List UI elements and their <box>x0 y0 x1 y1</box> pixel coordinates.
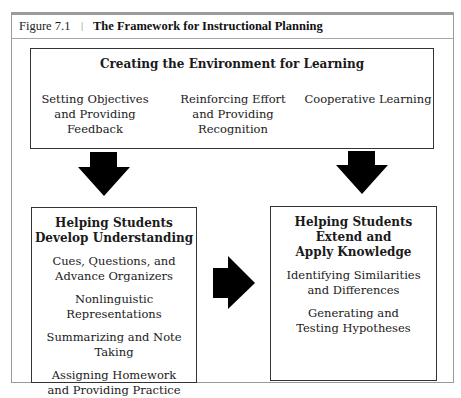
arrow-down-icon <box>78 152 131 197</box>
title-line: Extend and <box>271 230 436 245</box>
environment-item: Cooperative Learning <box>301 92 435 107</box>
title-line: Apply Knowledge <box>271 245 436 260</box>
title-line: Helping Students <box>32 216 196 231</box>
item-line: Testing Hypotheses <box>271 321 436 336</box>
figure-label: Figure 7.1 <box>19 19 70 34</box>
item-line: and Providing <box>159 107 307 122</box>
strategy-item: Generating and Testing Hypotheses <box>271 306 436 336</box>
item-line: Nonlinguistic Representations <box>32 292 196 322</box>
environment-box: Creating the Environment for Learning Se… <box>30 48 434 149</box>
strategy-item: Nonlinguistic Representations <box>32 292 196 322</box>
item-line: Reinforcing Effort <box>159 92 307 107</box>
item-line: Recognition <box>159 122 307 137</box>
strategy-item: Assigning Homework and Providing Practic… <box>32 368 196 398</box>
strategy-item: Cues, Questions, and Advance Organizers <box>32 254 196 284</box>
item-line: Advance Organizers <box>32 269 196 284</box>
item-line: Generating and <box>271 306 436 321</box>
develop-understanding-title: Helping Students Develop Understanding <box>32 216 196 246</box>
figure-header: Figure 7.1 | The Framework for Instructi… <box>11 15 454 39</box>
item-line: Setting Objectives <box>31 92 159 107</box>
environment-title: Creating the Environment for Learning <box>31 57 433 71</box>
item-line: and Providing Practice <box>32 383 196 398</box>
arrow-right-icon <box>213 256 256 310</box>
environment-item: Setting Objectives and Providing Feedbac… <box>31 92 159 137</box>
extend-apply-box: Helping Students Extend and Apply Knowle… <box>270 206 437 381</box>
item-line: Summarizing and Note Taking <box>32 330 196 360</box>
extend-apply-title: Helping Students Extend and Apply Knowle… <box>271 215 436 260</box>
environment-item: Reinforcing Effort and Providing Recogni… <box>159 92 307 137</box>
title-line: Develop Understanding <box>32 231 196 246</box>
figure-separator: | <box>81 19 83 31</box>
item-line: Feedback <box>31 122 159 137</box>
develop-understanding-box: Helping Students Develop Understanding C… <box>31 207 197 383</box>
item-line: Cooperative Learning <box>301 92 435 107</box>
title-line: Helping Students <box>271 215 436 230</box>
item-line: Cues, Questions, and <box>32 254 196 269</box>
strategy-item: Summarizing and Note Taking <box>32 330 196 360</box>
item-line: Assigning Homework <box>32 368 196 383</box>
item-line: and Differences <box>271 283 436 298</box>
strategy-item: Identifying Similarities and Differences <box>271 268 436 298</box>
item-line: Identifying Similarities <box>271 268 436 283</box>
arrow-down-icon <box>336 151 389 196</box>
figure-title: The Framework for Instructional Planning <box>93 19 323 34</box>
item-line: and Providing <box>31 107 159 122</box>
